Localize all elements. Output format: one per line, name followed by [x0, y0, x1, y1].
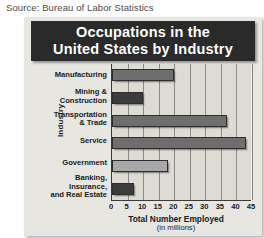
bar-slot: [112, 64, 251, 87]
category-label-column: Manufacturing Mining &Construction Trans…: [41, 64, 109, 200]
bar: [112, 69, 174, 81]
plot-canvas: [111, 64, 251, 200]
bar: [112, 92, 143, 104]
source-note: Source: Bureau of Labor Statistics: [6, 2, 154, 13]
x-tick-label: 5: [124, 202, 128, 211]
x-tick-label: 15: [153, 202, 161, 211]
category-label-text: & Trade: [79, 118, 107, 127]
x-tick-label: 0: [109, 202, 113, 211]
plot-area: Industry Manufacturing Mining &Construct…: [31, 64, 255, 230]
x-tick-label: 20: [169, 202, 177, 211]
bar-slot: [112, 87, 251, 110]
bar: [112, 137, 246, 149]
bar-series: [112, 64, 251, 200]
category-label-text: Construction: [60, 96, 107, 105]
category-label-service: Service: [41, 130, 109, 152]
x-axis-sublabel: (in millions): [91, 223, 261, 232]
bar-slot: [112, 109, 251, 132]
chart-title-line-1: Occupations in the: [76, 24, 210, 41]
category-label-transportation-trade: Transportation& Trade: [41, 108, 109, 130]
bar: [112, 183, 134, 195]
category-label-text: Government: [62, 159, 107, 168]
category-label-banking-insurance-real-estate: Banking,Insurance,and Real Estate: [41, 174, 109, 200]
category-label-text: and Real Estate: [50, 190, 107, 199]
category-label-mining-construction: Mining &Construction: [41, 86, 109, 108]
bar-slot: [112, 155, 251, 178]
bar: [112, 160, 168, 172]
chart-title-banner: Occupations in the United States by Indu…: [31, 21, 255, 61]
x-tick-label: 10: [138, 202, 146, 211]
chart-title-line-2: United States by Industry: [53, 41, 233, 58]
bar: [112, 115, 227, 127]
x-tick-label: 25: [185, 202, 193, 211]
x-tick-label: 35: [216, 202, 224, 211]
gridline: [252, 64, 253, 200]
x-tick-label: 40: [231, 202, 239, 211]
category-label-text: Manufacturing: [55, 71, 107, 80]
category-label-text: Service: [80, 137, 107, 146]
x-axis-ticks: 051015202530354045: [111, 202, 251, 214]
category-label-manufacturing: Manufacturing: [41, 64, 109, 86]
bar-slot: [112, 177, 251, 200]
chart-figure: Occupations in the United States by Indu…: [24, 17, 262, 236]
category-label-government: Government: [41, 152, 109, 174]
x-tick-label: 30: [200, 202, 208, 211]
bar-slot: [112, 132, 251, 155]
x-tick-label: 45: [247, 202, 255, 211]
